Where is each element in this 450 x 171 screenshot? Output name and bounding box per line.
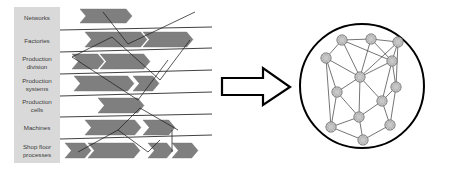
level-label-text-production-systems-0: Production (22, 77, 52, 84)
level-row-production-division[interactable]: Productiondivision (14, 52, 60, 74)
network-node-n4[interactable] (320, 53, 331, 64)
level-row-machines[interactable]: Machines (14, 117, 60, 139)
level-row-production-systems[interactable]: Productionsystems (14, 74, 60, 96)
network-node-n10[interactable] (353, 112, 364, 123)
network-boundary-circle (300, 24, 424, 148)
level-label-text-production-division-1: division (27, 63, 48, 70)
process-chevron-factories-2 (143, 32, 193, 47)
level-row-shop-floor-processes[interactable]: Shop floorprocesses (14, 139, 60, 163)
network-graph-diagram (300, 24, 424, 148)
level-row-factories[interactable]: Factories (14, 30, 60, 52)
level-label-text-machines-0: Machines (24, 124, 50, 131)
network-node-n8[interactable] (390, 82, 401, 93)
figure-root: NetworksFactoriesProductiondivisionProdu… (0, 0, 450, 171)
process-chevron-shop-floor-processes-11 (88, 143, 140, 158)
network-node-n12[interactable] (384, 120, 395, 131)
process-chevron-production-division-4 (100, 54, 150, 69)
level-label-text-networks-0: Networks (24, 14, 50, 21)
level-row-production-cells[interactable]: Productioncells (14, 96, 60, 117)
network-node-n6[interactable] (354, 72, 365, 83)
level-label-text-production-cells-1: cells (31, 106, 43, 113)
level-label-text-shop-floor-processes-0: Shop floor (23, 143, 51, 150)
network-node-n9[interactable] (376, 96, 387, 107)
level-label-text-factories-0: Factories (24, 37, 49, 44)
network-node-n3[interactable] (392, 37, 403, 48)
network-node-n13[interactable] (357, 135, 368, 146)
network-node-n7[interactable] (331, 87, 342, 98)
network-node-n2[interactable] (365, 34, 376, 45)
level-label-text-production-cells-0: Production (22, 98, 52, 105)
network-node-n5[interactable] (386, 56, 397, 67)
level-label-text-production-systems-1: systems (26, 85, 49, 92)
level-label-text-production-division-0: Production (22, 55, 52, 62)
network-node-n1[interactable] (336, 35, 347, 46)
level-label-text-shop-floor-processes-1: processes (23, 151, 51, 158)
level-row-networks[interactable]: Networks (14, 7, 60, 30)
network-node-n11[interactable] (325, 122, 336, 133)
